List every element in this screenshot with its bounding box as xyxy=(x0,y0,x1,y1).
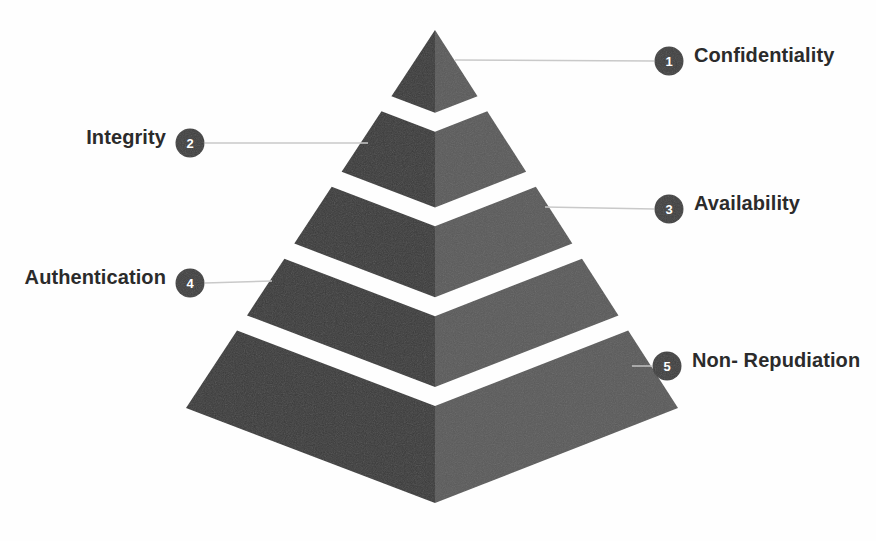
badge-4[interactable]: 4 xyxy=(176,269,205,298)
badge-number-2: 2 xyxy=(186,136,193,151)
badge-number-5: 5 xyxy=(663,359,670,374)
badge-2[interactable]: 2 xyxy=(176,129,205,158)
badge-number-4: 4 xyxy=(186,276,194,291)
tier-label-1: Confidentiality xyxy=(694,44,834,67)
badge-1[interactable]: 1 xyxy=(655,47,684,76)
tier-label-2: Integrity xyxy=(86,126,166,149)
connector-line-1 xyxy=(455,60,654,61)
badge-number-1: 1 xyxy=(665,54,672,69)
tier-label-5: Non- Repudiation xyxy=(692,349,860,372)
badge-3[interactable]: 3 xyxy=(655,195,684,224)
tier-2-right-face xyxy=(435,111,526,207)
tier-label-3: Availability xyxy=(694,192,800,215)
tier-1-right-face xyxy=(435,30,478,113)
tier-1-left-face xyxy=(391,30,435,113)
connector-line-4 xyxy=(205,281,272,283)
connector-line-3 xyxy=(545,207,654,209)
pyramid-tiers xyxy=(186,30,678,503)
badge-5[interactable]: 5 xyxy=(653,352,682,381)
tier-2-left-face xyxy=(342,111,435,207)
tier-label-4: Authentication xyxy=(25,266,166,289)
badge-number-3: 3 xyxy=(665,202,672,217)
pyramid-diagram: 12345 ConfidentialityIntegrityAvailabili… xyxy=(0,0,876,541)
